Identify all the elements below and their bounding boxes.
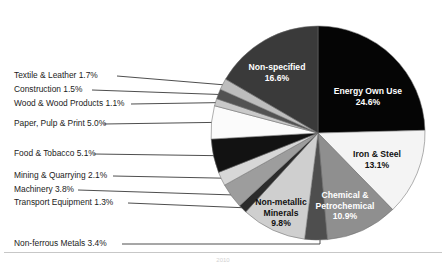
chart-figure: Non-specified16.6%Energy Own Use24.6%Iro…: [0, 0, 446, 268]
callout-label: Construction 1.5%: [14, 84, 83, 94]
callout-label: Wood & Wood Products 1.1%: [14, 98, 125, 108]
callout-label: Textile & Leather 1.7%: [14, 70, 98, 80]
callout-label: Transport Equipment 1.3%: [14, 197, 114, 207]
callout-label: Mining & Quarrying 2.1%: [14, 170, 108, 180]
callout-label: Paper, Pulp & Print 5.0%: [14, 118, 107, 128]
callout-label: Food & Tobacco 5.1%: [14, 148, 96, 158]
pie-chart-svg: Non-specified16.6%Energy Own Use24.6%Iro…: [0, 0, 446, 268]
callout-label: Non-ferrous Metals 3.4%: [14, 238, 107, 248]
callout-label: Machinery 3.8%: [14, 184, 75, 194]
chart-caption: 2010: [216, 257, 230, 263]
